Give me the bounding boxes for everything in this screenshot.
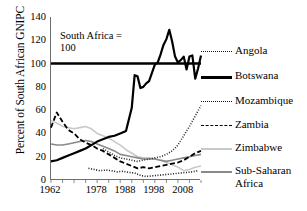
- legend-item-mozambique[interactable]: Mozambique: [201, 94, 307, 110]
- legend-label: Mozambique: [235, 94, 293, 106]
- legend-label: Zambia: [235, 118, 269, 130]
- y-tick-140: 140: [22, 12, 46, 22]
- annotation-line-2: 100: [60, 42, 150, 54]
- x-tick-2008: 2008: [163, 184, 203, 195]
- legend-swatch-solid-light: [201, 148, 232, 150]
- legend: AngolaBotswanaMozambiqueZambiaZimbabweSu…: [201, 44, 307, 189]
- y-tick-80: 80: [22, 82, 46, 92]
- y-tick-100: 100: [22, 59, 46, 69]
- annotation-line-1: South Africa =: [60, 30, 150, 42]
- legend-item-sub-saharan-africa[interactable]: Sub-Saharan Africa: [201, 164, 307, 180]
- legend-swatch-dotted: [201, 101, 232, 102]
- reference-annotation: South Africa = 100: [60, 30, 150, 54]
- legend-label: Botswana: [235, 69, 278, 81]
- legend-swatch-solid-thick: [201, 76, 232, 79]
- legend-item-zambia[interactable]: Zambia: [201, 118, 307, 134]
- legend-swatch-dotted: [201, 51, 232, 52]
- legend-label: Angola: [235, 44, 267, 56]
- legend-swatch-dashed: [201, 125, 232, 126]
- legend-item-botswana[interactable]: Botswana: [201, 69, 307, 85]
- series-line-zambia: [51, 112, 201, 168]
- legend-label: Zimbabwe: [235, 141, 282, 153]
- legend-item-zimbabwe[interactable]: Zimbabwe: [201, 141, 307, 157]
- y-tick-120: 120: [22, 35, 46, 45]
- y-tick-20: 20: [22, 152, 46, 162]
- legend-swatch-solid-medium: [201, 171, 232, 173]
- y-tick-40: 40: [22, 128, 46, 138]
- chart-figure: Percent of South African GNIPC 020406080…: [0, 0, 307, 211]
- legend-label: Sub-Saharan Africa: [235, 164, 307, 189]
- x-tick-1962: 1962: [30, 184, 70, 195]
- y-tick-60: 60: [22, 105, 46, 115]
- legend-item-angola[interactable]: Angola: [201, 44, 307, 60]
